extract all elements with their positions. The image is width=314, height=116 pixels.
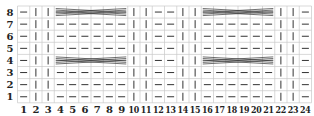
knitting-chart: 87654321 1234567891011121314151617181920…	[0, 0, 314, 116]
row-label: 8	[7, 7, 14, 18]
column-label: 10	[128, 104, 139, 115]
column-labels: 123456789101112131415161718192021222324	[20, 104, 311, 115]
column-label: 6	[81, 104, 88, 115]
column-label: 14	[177, 104, 188, 115]
row-label: 3	[7, 67, 14, 78]
column-label: 23	[288, 104, 299, 115]
column-label: 11	[141, 104, 152, 115]
chart-grid	[18, 6, 312, 103]
column-label: 9	[118, 104, 125, 115]
column-label: 20	[251, 104, 262, 115]
column-label: 18	[226, 104, 237, 115]
column-label: 1	[20, 104, 27, 115]
column-label: 17	[214, 104, 225, 115]
row-label: 1	[7, 91, 14, 102]
column-label: 4	[57, 104, 64, 115]
column-label: 12	[153, 104, 164, 115]
row-label: 2	[7, 79, 14, 90]
row-label: 7	[7, 19, 14, 30]
column-label: 21	[263, 104, 274, 115]
column-label: 19	[239, 104, 250, 115]
column-label: 7	[94, 104, 101, 115]
column-label: 15	[190, 104, 201, 115]
column-label: 8	[106, 104, 113, 115]
column-label: 5	[69, 104, 76, 115]
column-label: 3	[45, 104, 52, 115]
row-label: 6	[7, 31, 14, 42]
column-label: 16	[202, 104, 213, 115]
row-label: 5	[7, 43, 14, 54]
row-labels: 87654321	[7, 7, 14, 103]
column-label: 13	[165, 104, 176, 115]
column-label: 2	[32, 104, 39, 115]
column-label: 24	[300, 104, 311, 115]
column-label: 22	[275, 104, 286, 115]
row-label: 4	[7, 55, 14, 66]
